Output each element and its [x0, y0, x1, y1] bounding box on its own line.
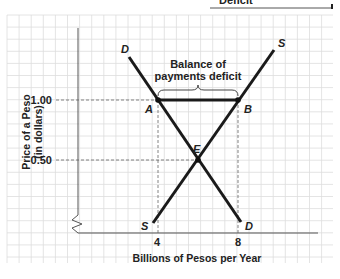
- point-a: [155, 97, 161, 103]
- demand-label-bottom: D: [245, 220, 253, 232]
- deficit-brace: [158, 85, 238, 96]
- point-a-label: A: [144, 103, 153, 115]
- chart-canvas: Deficit Balance of payments deficit D S …: [0, 0, 340, 279]
- grid: [7, 15, 333, 263]
- point-b-label: B: [244, 103, 252, 115]
- demand-label-top: D: [121, 43, 129, 55]
- header-clipped-title: Deficit: [219, 0, 253, 6]
- axis-break-icon: [72, 215, 82, 233]
- x-axis-title: Billions of Pesos per Year: [133, 252, 262, 264]
- x-tick-4: 4: [154, 236, 161, 248]
- annotation-line2: payments deficit: [155, 70, 242, 82]
- guide-lines: [56, 100, 238, 233]
- point-e-label: E: [193, 143, 201, 155]
- point-b: [235, 97, 241, 103]
- point-e: [195, 157, 201, 163]
- y-tick-1: 1.00: [31, 94, 52, 106]
- supply-label-top: S: [278, 37, 286, 49]
- y-axis-subtitle: (in dollars): [32, 105, 44, 159]
- supply-label-bottom: S: [141, 220, 149, 232]
- annotation-line1: Balance of: [170, 58, 226, 70]
- header-tick: [331, 4, 333, 9]
- y-axis-title: Price of a Peso: [20, 94, 32, 169]
- x-tick-8: 8: [235, 236, 241, 248]
